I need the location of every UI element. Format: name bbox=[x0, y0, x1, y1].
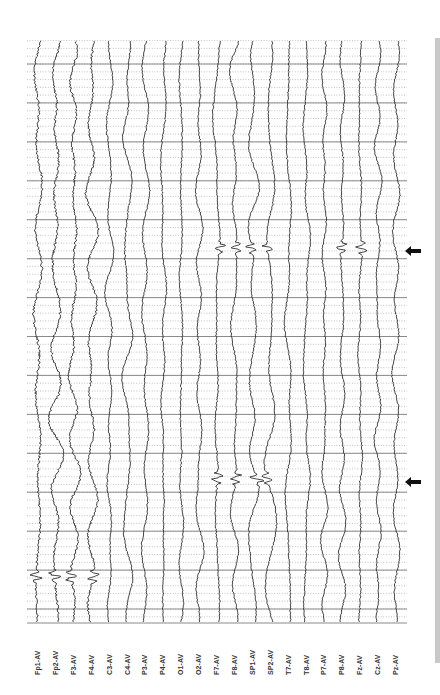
channel-label-o2-av: O2-AV bbox=[195, 654, 202, 675]
channel-label-fp2-av: Fp2-AV bbox=[52, 650, 59, 675]
trace-p7-av bbox=[320, 41, 328, 622]
channel-label-c4-av: C4-AV bbox=[124, 654, 131, 675]
trace-f8-av bbox=[229, 41, 242, 622]
channel-label-sp2-av: SP2-AV bbox=[267, 650, 274, 675]
eeg-plot bbox=[0, 0, 440, 695]
trace-cz-av bbox=[374, 41, 382, 622]
trace-fz-av bbox=[356, 41, 367, 622]
arrow-discharge-2-icon bbox=[405, 473, 421, 483]
trace-c4-av bbox=[122, 41, 134, 622]
channel-label-cz-av: Cz-AV bbox=[374, 654, 381, 675]
trace-t8-av bbox=[303, 41, 311, 622]
trace-f3-av bbox=[66, 41, 82, 622]
trace-pz-av bbox=[392, 41, 401, 622]
trace-f7-av bbox=[212, 41, 226, 622]
eeg-traces bbox=[30, 41, 400, 622]
channel-label-f4-av: F4-AV bbox=[88, 655, 95, 675]
trace-p4-av bbox=[160, 41, 167, 622]
channel-label-o1-av: O1-AV bbox=[177, 654, 184, 675]
channel-label-sp1-av: SP1-AV bbox=[249, 650, 256, 675]
trace-t7-av bbox=[284, 41, 292, 622]
trace-p8-av bbox=[337, 41, 347, 622]
channel-label-fz-av: Fz-AV bbox=[356, 655, 363, 675]
trace-o2-av bbox=[195, 41, 204, 622]
trace-o1-av bbox=[179, 41, 185, 622]
arrow-discharge-1-icon bbox=[405, 242, 421, 252]
channel-label-p3-av: P3-AV bbox=[141, 654, 148, 675]
channel-label-c3-av: C3-AV bbox=[106, 654, 113, 675]
trace-sp2-av bbox=[262, 41, 277, 622]
channel-label-f8-av: F8-AV bbox=[231, 655, 238, 675]
trace-fp1-av bbox=[30, 41, 43, 622]
trace-c3-av bbox=[104, 41, 114, 622]
trace-p3-av bbox=[141, 41, 150, 622]
side-scrollbar[interactable] bbox=[435, 38, 440, 663]
channel-label-p8-av: P8-AV bbox=[338, 654, 345, 675]
channel-label-f7-av: F7-AV bbox=[213, 655, 220, 675]
eeg-figure: Fp1-AVFp2-AVF3-AVF4-AVC3-AVC4-AVP3-AVP4-… bbox=[0, 0, 440, 695]
channel-label-p4-av: P4-AV bbox=[159, 654, 166, 675]
channel-label-p7-av: P7-AV bbox=[320, 654, 327, 675]
channel-label-f3-av: F3-AV bbox=[70, 655, 77, 675]
channel-label-t8-av: T8-AV bbox=[303, 655, 310, 675]
channel-label-t7-av: T7-AV bbox=[285, 655, 292, 675]
channel-label-pz-av: Pz-AV bbox=[392, 655, 399, 675]
trace-f4-av bbox=[85, 41, 99, 622]
trace-sp1-av bbox=[246, 41, 264, 622]
trace-fp2-av bbox=[48, 41, 64, 622]
channel-label-fp1-av: Fp1-AV bbox=[34, 650, 41, 675]
